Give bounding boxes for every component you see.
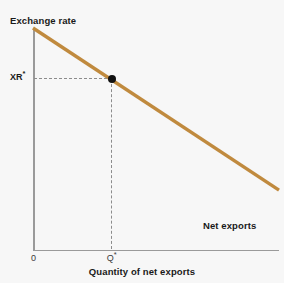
net-exports-curve-label: Net exports	[203, 221, 256, 231]
plot-area	[0, 0, 284, 283]
horizontal-dashed-guide	[34, 78, 112, 79]
x-tick-star-icon: *	[114, 250, 117, 259]
x-axis-line	[33, 250, 279, 252]
x-axis-tick-label-q: Q*	[107, 254, 117, 263]
origin-label: 0	[31, 254, 36, 263]
y-axis-line	[33, 28, 35, 251]
net-exports-curve	[33, 28, 279, 190]
equilibrium-point-marker	[108, 75, 116, 83]
net-exports-chart: Exchange rate Quantity of net exports Ne…	[0, 0, 284, 283]
y-axis-tick-label-xr: XR*	[10, 73, 25, 82]
y-tick-base-text: XR	[10, 72, 23, 82]
y-tick-star-icon: *	[23, 69, 26, 78]
y-axis-title: Exchange rate	[10, 16, 76, 26]
x-axis-title: Quantity of net exports	[0, 267, 284, 277]
x-tick-base-text: Q	[107, 253, 114, 263]
vertical-dashed-guide	[111, 79, 112, 249]
